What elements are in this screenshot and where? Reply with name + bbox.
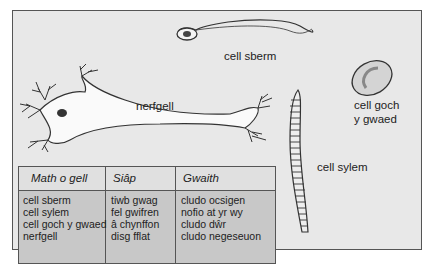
- header-cell-type: Math o gell: [31, 172, 87, 184]
- sperm-cell-label: cell sberm: [224, 50, 276, 63]
- xylem-cell-label: cell sylem: [317, 161, 367, 174]
- column-cell-type: cell sberm cell sylem cell goch y gwaed …: [23, 194, 106, 242]
- table-cell: cludo negeseuon: [181, 230, 261, 242]
- table-cell: nerfgell: [23, 230, 106, 242]
- table-cell: cell goch y gwaed: [23, 218, 106, 230]
- table-cell: â chynffon: [111, 218, 159, 230]
- table-cell: cludo ocsigen: [181, 194, 261, 206]
- column-divider: [175, 167, 176, 263]
- header-shape: Siâp: [113, 172, 136, 184]
- table-cell: fel gwifren: [111, 206, 159, 218]
- table-cell: cludo dŵr: [181, 218, 261, 230]
- red-blood-cell-label-line2: y gwaed: [354, 113, 397, 126]
- red-blood-cell-drawing: [346, 54, 398, 103]
- cell-types-table: Math o gell Siâp Gwaith cell sberm cell …: [18, 166, 276, 264]
- table-cell: tiwb gwag: [111, 194, 159, 206]
- header-function: Gwaith: [183, 172, 219, 184]
- table-cell: cell sberm: [23, 194, 106, 206]
- nerve-cell-label: nerfgell: [136, 100, 174, 113]
- table-cell: nofio at yr wy: [181, 206, 261, 218]
- column-shape: tiwb gwag fel gwifren â chynffon disg ff…: [111, 194, 159, 242]
- xylem-cell-drawing: [290, 90, 308, 232]
- sperm-cell-drawing: [177, 20, 313, 40]
- table-cell: cell sylem: [23, 206, 106, 218]
- red-blood-cell-label-line1: cell goch: [354, 99, 399, 112]
- column-function: cludo ocsigen nofio at yr wy cludo dŵr c…: [181, 194, 261, 242]
- table-cell: disg fflat: [111, 230, 159, 242]
